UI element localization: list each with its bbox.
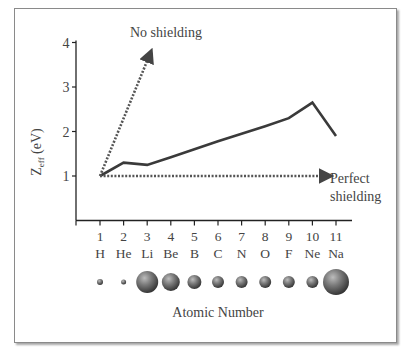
element-label: H (95, 246, 105, 261)
element-label: F (285, 246, 293, 261)
element-label: Ne (305, 246, 321, 261)
atom-sphere-C (212, 276, 224, 288)
x-tick-label: 10 (306, 229, 320, 244)
data-series (100, 55, 336, 176)
x-tick-label: 6 (215, 229, 222, 244)
element-label: He (116, 246, 132, 261)
x-tick-label: 2 (120, 229, 127, 244)
element-label: N (237, 246, 247, 261)
y-axis-label: Zeff (eV) (29, 128, 46, 176)
element-label: Li (141, 246, 153, 261)
atom-sphere-Be (162, 273, 180, 291)
x-tick-label: 11 (330, 229, 343, 244)
atom-sphere-F (283, 276, 295, 288)
axes: 1234 (63, 36, 353, 226)
perfect-shielding-label-line1: Perfect (330, 171, 370, 186)
element-label: Be (163, 246, 178, 261)
atom-sphere-N (236, 276, 248, 288)
x-tick-label: 1 (97, 229, 104, 244)
y-tick-label: 1 (63, 169, 70, 184)
x-tick-label: 3 (144, 229, 151, 244)
no-shielding-arrow (100, 55, 150, 176)
atom-sphere-He (121, 280, 126, 285)
perfect-shielding-label-line2: shielding (330, 189, 381, 204)
zeff-chart: 1234 1H2He3Li4Be5B6C7N8O9F10Ne11NaNo shi… (0, 0, 408, 349)
atom-sphere-H (97, 279, 103, 285)
x-tick-label: 8 (262, 229, 269, 244)
element-label: B (190, 246, 199, 261)
x-axis-label: Atomic Number (172, 305, 264, 320)
no-shielding-label: No shielding (130, 25, 202, 40)
atom-sphere-Ne (306, 276, 318, 288)
atom-sphere-B (187, 275, 201, 289)
element-label: O (260, 246, 270, 261)
atom-sphere-Na (323, 269, 349, 295)
zeff-line (100, 103, 336, 176)
element-label: Na (328, 246, 344, 261)
y-tick-label: 2 (63, 125, 70, 140)
atom-sphere-O (259, 276, 271, 288)
atom-sphere-Li (136, 271, 158, 293)
y-tick-label: 4 (63, 36, 70, 51)
element-label: C (213, 246, 222, 261)
x-tick-label: 9 (285, 229, 292, 244)
x-tick-label: 5 (191, 229, 198, 244)
atom-size-row (97, 269, 349, 295)
y-tick-label: 3 (63, 80, 70, 95)
x-tick-label: 4 (167, 229, 174, 244)
x-tick-label: 7 (238, 229, 245, 244)
